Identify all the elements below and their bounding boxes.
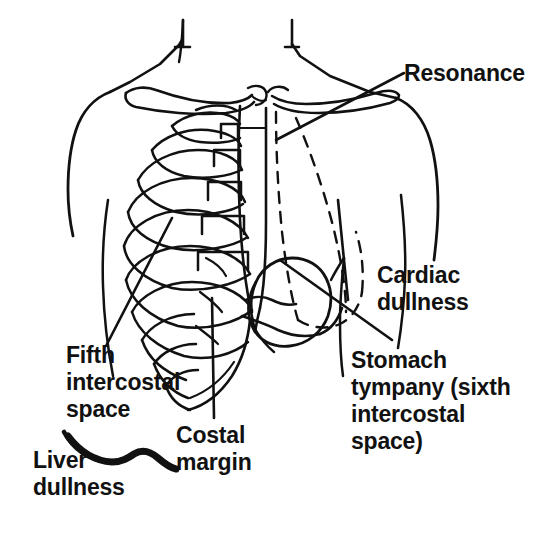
right-sc-joint xyxy=(268,87,288,92)
right-chest-inner-border xyxy=(340,258,344,376)
left-shoulder-outline xyxy=(68,92,110,236)
chest-percussion-figure: Resonance Cardiac dullness Stomach tympa… xyxy=(0,0,557,544)
sternum-right-edge xyxy=(260,108,266,308)
right-lung-border-dashed xyxy=(276,112,298,320)
label-stomach-tympany: Stomach tympany (sixth intercostal space… xyxy=(351,347,551,455)
label-resonance: Resonance xyxy=(404,60,525,87)
left-clavicle xyxy=(126,88,252,104)
label-costal-margin: Costal margin xyxy=(176,422,251,476)
costal-margin-line xyxy=(188,320,250,410)
label-fifth-intercostal-space: Fifth intercostal space xyxy=(66,342,180,423)
neck-left-slope xyxy=(110,40,182,92)
right-clavicle xyxy=(272,91,398,104)
label-cardiac-dullness: Cardiac dullness xyxy=(377,262,469,316)
label-liver-dullness: Liver dullness xyxy=(33,447,125,501)
stomach-lesser-curve xyxy=(246,297,296,305)
right-shoulder-outline xyxy=(396,98,438,260)
neck-right-slope xyxy=(292,44,396,98)
stomach-pylorus xyxy=(320,308,342,334)
manubrium-notch xyxy=(252,96,266,101)
neck-left-bracket xyxy=(175,20,190,47)
cardiac-dullness-leader xyxy=(338,200,348,300)
heart-apex-dashed xyxy=(356,232,363,292)
costal-margin-leader xyxy=(212,298,214,418)
resonance-leader xyxy=(276,73,404,140)
epigastric-contour xyxy=(250,320,274,352)
